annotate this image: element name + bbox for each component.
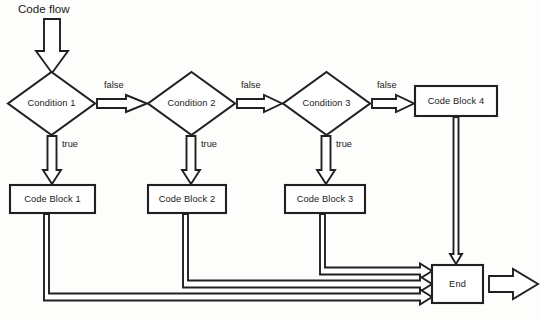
node-label-codeblock1: Code Block 1 [10,194,95,204]
edge-condition1-false-arrow [97,95,147,112]
node-label-codeblock4: Code Block 4 [415,96,497,106]
flowchart-graphics [0,0,540,320]
edge-codeblock1-to-end-arrow [44,214,432,305]
node-label-end: End [432,279,483,289]
edge-condition2-false-arrow [237,95,282,112]
edge-label-false-3: false [377,80,397,90]
edge-codeblock4-to-end-arrow [450,117,462,264]
edge-end-to-exit-arrow [489,269,538,299]
node-label-codeblock3: Code Block 3 [285,194,365,204]
edge-condition2-true-arrow [182,136,200,184]
edge-label-true-3: true [336,139,352,149]
edge-label-true-1: true [62,139,78,149]
edge-codeblock2-to-end-arrow [183,214,432,292]
edge-label-true-2: true [201,139,217,149]
flowchart-canvas: Code flow Condition 1 Condition 2 Condit… [0,0,540,320]
edge-condition1-true-arrow [43,136,61,184]
edge-codeblock3-to-end-arrow [320,214,432,279]
edge-label-false-2: false [241,80,261,90]
node-label-codeblock2: Code Block 2 [148,194,226,204]
node-label-condition3: Condition 3 [283,98,370,108]
edge-condition3-false-arrow [372,95,414,112]
edge-condition3-true-arrow [317,136,335,184]
edge-label-false-1: false [104,80,124,90]
node-label-condition1: Condition 1 [8,98,95,108]
diagram-title: Code flow [18,2,70,15]
edge-start-to-condition1-arrow [36,19,68,73]
node-label-condition2: Condition 2 [148,98,235,108]
